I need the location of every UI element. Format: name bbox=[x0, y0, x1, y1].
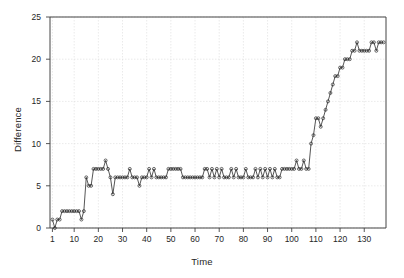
x-tick-label: 1 bbox=[40, 234, 64, 244]
x-tick-label: 60 bbox=[183, 234, 207, 244]
y-tick-label: 20 bbox=[21, 54, 41, 64]
x-tick-label: 40 bbox=[135, 234, 159, 244]
y-tick-label: 0 bbox=[21, 223, 41, 233]
x-tick-label: 20 bbox=[86, 234, 110, 244]
plot-frame bbox=[50, 17, 386, 228]
chart-container: Difference Time 110203040506070809010011… bbox=[0, 0, 404, 278]
x-tick-label: 80 bbox=[231, 234, 255, 244]
x-tick-label: 130 bbox=[352, 234, 376, 244]
x-tick-label: 100 bbox=[280, 234, 304, 244]
x-tick-label: 120 bbox=[328, 234, 352, 244]
y-tick-label: 15 bbox=[21, 96, 41, 106]
x-tick-label: 30 bbox=[111, 234, 135, 244]
x-tick-label: 110 bbox=[304, 234, 328, 244]
y-tick-label: 25 bbox=[21, 12, 41, 22]
x-tick-label: 10 bbox=[62, 234, 86, 244]
y-tick-label: 10 bbox=[21, 139, 41, 149]
x-tick-label: 50 bbox=[159, 234, 183, 244]
axis-ticks bbox=[46, 17, 364, 232]
y-tick-label: 5 bbox=[21, 181, 41, 191]
x-tick-label: 90 bbox=[256, 234, 280, 244]
data-series bbox=[51, 41, 385, 230]
x-tick-label: 70 bbox=[207, 234, 231, 244]
gridlines bbox=[50, 17, 386, 228]
series-line bbox=[52, 42, 383, 228]
